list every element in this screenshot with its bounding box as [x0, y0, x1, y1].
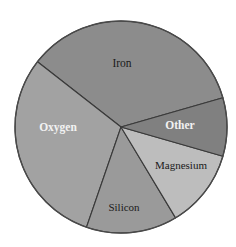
- pie-chart-container: IronOxygenSiliconMagnesiumOther: [0, 0, 236, 247]
- pie-label-other: Other: [165, 119, 194, 131]
- pie-label-magnesium: Magnesium: [155, 159, 207, 171]
- pie-label-silicon: Silicon: [108, 201, 140, 213]
- pie-label-oxygen: Oxygen: [39, 121, 77, 134]
- pie-chart-svg: IronOxygenSiliconMagnesiumOther: [0, 0, 236, 247]
- pie-label-iron: Iron: [112, 57, 131, 69]
